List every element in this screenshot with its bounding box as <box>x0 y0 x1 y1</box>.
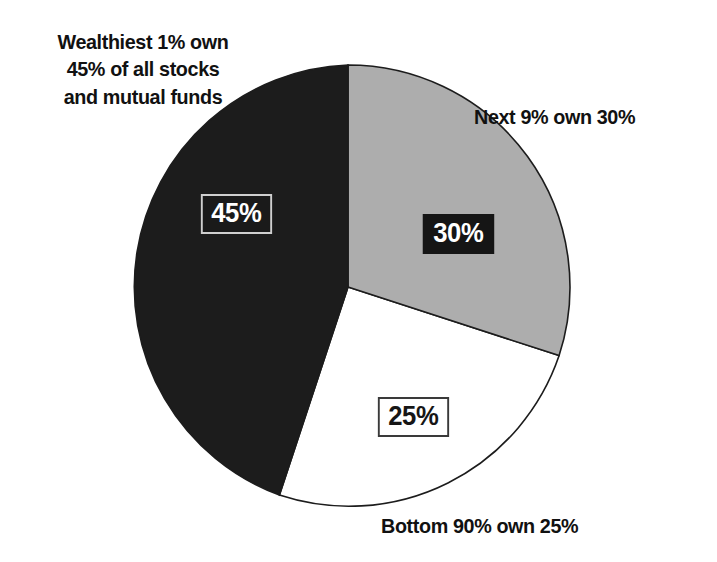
data-label-next: 30% <box>423 214 494 254</box>
callout-line-1: Wealthiest 1% own <box>58 30 229 53</box>
data-label-wealthiest: 45% <box>201 194 272 234</box>
callout-line-3: and mutual funds <box>64 85 222 108</box>
data-label-bottom: 25% <box>378 397 449 437</box>
callout-label-next: Next 9% own 30% <box>474 103 635 130</box>
pie-chart-figure: Wealthiest 1% own45% of all stocksand mu… <box>0 0 717 562</box>
callout-label-wealthiest: Wealthiest 1% own45% of all stocksand mu… <box>26 28 261 110</box>
callout-line-2: 45% of all stocks <box>67 57 220 80</box>
callout-label-bottom: Bottom 90% own 25% <box>381 512 578 539</box>
